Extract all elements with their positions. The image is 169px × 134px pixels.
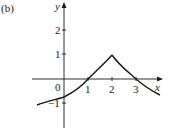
y-axis-arrow-icon bbox=[62, 2, 67, 8]
origin-label: 0 bbox=[55, 81, 61, 93]
graph-figure: (b) y x 1 2 3 2 1 −1 0 bbox=[0, 0, 169, 134]
x-tick-label-3: 3 bbox=[133, 83, 139, 95]
y-tick-label-2: 2 bbox=[55, 24, 61, 36]
y-axis-label: y bbox=[54, 0, 60, 12]
x-tick-label-1: 1 bbox=[85, 83, 91, 95]
x-tick-label-2: 2 bbox=[109, 83, 115, 95]
y-tick-label-1: 1 bbox=[55, 48, 61, 60]
x-axis-label: x bbox=[154, 81, 160, 93]
panel-label: (b) bbox=[1, 2, 14, 15]
